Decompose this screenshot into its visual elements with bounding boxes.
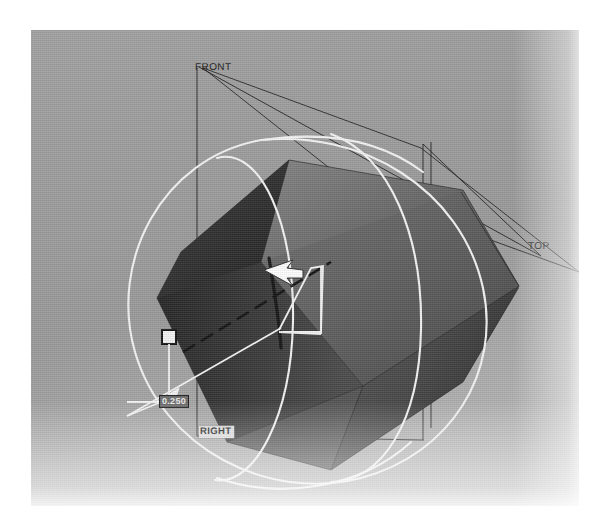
datum-plane-label-top[interactable]: TOP xyxy=(528,242,550,252)
dimension-value-box[interactable]: 0.250 xyxy=(159,395,189,408)
datum-plane-label-right[interactable]: RIGHT xyxy=(199,426,234,438)
cad-graphics-viewport[interactable]: FRONT TOP RIGHT 0.250 xyxy=(31,30,579,506)
screenshot-root: FRONT TOP RIGHT 0.250 xyxy=(0,0,612,523)
cad-scene[interactable] xyxy=(31,30,579,506)
datum-plane-label-front[interactable]: FRONT xyxy=(195,63,231,73)
